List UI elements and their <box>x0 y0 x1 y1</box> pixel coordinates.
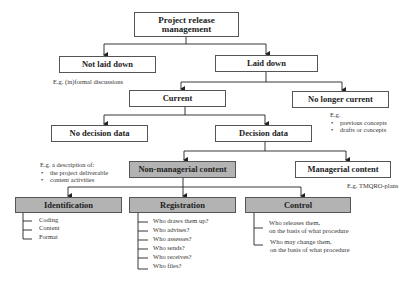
node-no-longer-current: No longer current <box>292 91 389 108</box>
registration-item: Who sends? <box>153 244 208 253</box>
control-item: Who releases them, on the basis of what … <box>269 219 349 235</box>
note-item: previous concepts <box>330 119 387 127</box>
node-non-managerial-content: Non-managerial content <box>129 161 236 178</box>
identification-items: Coding Content Format <box>39 216 60 241</box>
note-tmqro-plans: E.g. TMQRO-plans <box>347 182 398 190</box>
node-current: Current <box>129 90 226 107</box>
registration-item: Who draws them up? <box>153 217 208 226</box>
note-intro: E.g. <box>330 111 387 119</box>
identification-item: Format <box>39 233 60 241</box>
node-label: Non-managerial content <box>138 165 226 174</box>
control-item-line: on the basis of what procedure <box>269 227 349 235</box>
registration-item: Who files? <box>153 262 208 271</box>
node-label: Identification <box>44 201 93 210</box>
node-label: No decision data <box>70 129 130 138</box>
registration-item: Who receives? <box>153 253 208 262</box>
node-not-laid-down: Not laid down <box>59 56 156 73</box>
identification-item: Content <box>39 224 60 232</box>
node-label: Current <box>163 94 193 103</box>
note-intro: E.g. a description of: <box>40 161 108 169</box>
note-non-managerial-examples: E.g. a description of: the project deliv… <box>40 161 108 184</box>
node-label: No longer current <box>308 95 373 104</box>
node-project-release-management: Project release management <box>134 12 239 37</box>
registration-item: Who assesses? <box>153 235 208 244</box>
control-item-line: Who releases them, <box>269 219 349 227</box>
note-informal-discussions: E.g. (in)formal discussions <box>53 78 123 86</box>
node-label: Control <box>284 201 312 210</box>
node-label: Registration <box>160 201 205 210</box>
control-item: Who may change them, on the basis of wha… <box>270 238 350 254</box>
note-item: drafts or concepts <box>330 126 387 134</box>
note-item: content activities <box>40 176 108 184</box>
node-no-decision-data: No decision data <box>51 125 148 142</box>
note-item: the project deliverable <box>40 169 108 177</box>
registration-items: Who draws them up? Who advises? Who asse… <box>153 217 208 270</box>
registration-item: Who advises? <box>153 226 208 235</box>
note-no-longer-current-examples: E.g. previous concepts drafts or concept… <box>330 111 387 134</box>
node-label: Managerial content <box>307 165 378 174</box>
control-item-line: Who may change them, <box>270 238 350 246</box>
control-item-line: on the basis of what procedure <box>270 246 350 254</box>
identification-item: Coding <box>39 216 60 224</box>
node-laid-down: Laid down <box>215 55 318 72</box>
node-label: Laid down <box>247 59 286 68</box>
node-identification: Identification <box>15 197 122 213</box>
node-label: Project release management <box>135 16 238 34</box>
node-registration: Registration <box>129 197 236 213</box>
node-label: Not laid down <box>82 60 133 69</box>
node-managerial-content: Managerial content <box>295 161 391 178</box>
node-control: Control <box>245 197 351 213</box>
node-decision-data: Decision data <box>215 125 312 142</box>
node-label: Decision data <box>239 129 288 138</box>
